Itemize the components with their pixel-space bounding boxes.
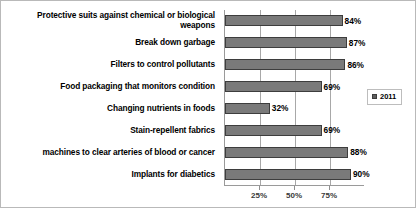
table-row: 86% — [225, 54, 364, 76]
x-axis-tick-mark — [259, 186, 260, 190]
bar[interactable]: 87% — [225, 37, 347, 48]
category-label-row: machines to clear arteries of blood or c… — [5, 142, 220, 164]
bar[interactable]: 69% — [225, 125, 322, 136]
bar[interactable]: 84% — [225, 15, 343, 26]
category-label: Implants for diabetics — [131, 170, 215, 180]
bar[interactable]: 32% — [225, 103, 270, 114]
x-axis-tick-mark — [329, 186, 330, 190]
bar-value-label: 87% — [349, 38, 366, 48]
bar-value-label: 86% — [347, 60, 364, 70]
plot-area: 84% 87% 86% 69% 32% — [224, 10, 364, 186]
bar-rows: 84% 87% 86% 69% 32% — [225, 10, 364, 185]
x-axis-tick-label: 25% — [251, 191, 267, 200]
category-label: Food packaging that monitors condition — [60, 82, 215, 92]
table-row: 84% — [225, 10, 364, 32]
category-label-row: Protective suits against chemical or bio… — [5, 10, 220, 32]
x-axis-tick-label: 50% — [286, 191, 302, 200]
bar-value-label: 88% — [350, 147, 367, 157]
bar-value-label: 69% — [324, 125, 341, 135]
bar[interactable]: 86% — [225, 59, 345, 70]
legend-swatch-icon — [372, 94, 377, 99]
category-label: Protective suits against chemical or bio… — [5, 11, 215, 31]
category-label-column: Protective suits against chemical or bio… — [5, 10, 220, 186]
bar[interactable]: 88% — [225, 147, 348, 158]
category-label-row: Filters to control pollutants — [5, 54, 220, 76]
table-row: 69% — [225, 76, 364, 98]
bar[interactable]: 69% — [225, 81, 322, 92]
category-label: Changing nutrients in foods — [107, 104, 215, 114]
bar-value-label: 90% — [353, 169, 370, 179]
x-axis-tick-mark — [294, 186, 295, 190]
table-row: 88% — [225, 141, 364, 163]
bar-value-label: 84% — [345, 16, 362, 26]
category-label: Filters to control pollutants — [111, 60, 216, 70]
x-axis: 25%50%75% — [224, 186, 364, 204]
legend: 2011 — [367, 89, 402, 105]
legend-label: 2011 — [380, 92, 396, 101]
category-label-row: Break down garbage — [5, 32, 220, 54]
category-label-row: Stain-repellent fabrics — [5, 120, 220, 142]
chart-container: Protective suits against chemical or bio… — [0, 0, 416, 208]
category-label-row: Changing nutrients in foods — [5, 98, 220, 120]
category-label-row: Food packaging that monitors condition — [5, 76, 220, 98]
bar-value-label: 69% — [324, 82, 341, 92]
bar-value-label: 32% — [272, 103, 289, 113]
x-axis-tick-label: 75% — [321, 191, 337, 200]
bar[interactable]: 90% — [225, 169, 351, 180]
category-label: Break down garbage — [135, 38, 215, 48]
category-label: machines to clear arteries of blood or c… — [42, 148, 215, 158]
table-row: 87% — [225, 32, 364, 54]
table-row: 90% — [225, 163, 364, 185]
table-row: 69% — [225, 119, 364, 141]
category-label-row: Implants for diabetics — [5, 164, 220, 186]
category-label: Stain-repellent fabrics — [130, 126, 215, 136]
table-row: 32% — [225, 98, 364, 120]
